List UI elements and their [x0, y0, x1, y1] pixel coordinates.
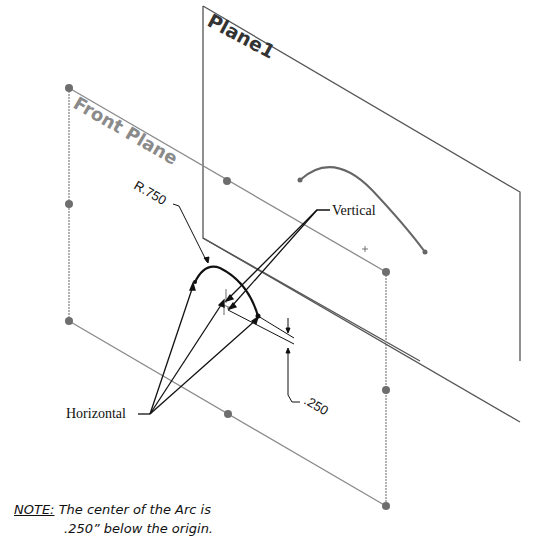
horizontal-leader — [138, 283, 258, 414]
sketch-canvas: .250 R.750 Vertical Horizontal Plane1 Fr… — [0, 0, 538, 556]
note-line2: .250” below the origin. — [14, 519, 213, 538]
plane1[interactable] — [203, 6, 520, 361]
note-line1: The center of the Arc is — [59, 502, 211, 517]
front-plane[interactable] — [65, 84, 390, 510]
vertical-label: Vertical — [332, 203, 376, 218]
plane-handles[interactable] — [65, 84, 390, 510]
horizontal-label: Horizontal — [66, 406, 126, 421]
note-keyword: NOTE: — [14, 502, 55, 517]
radius-label: R.750 — [132, 178, 170, 208]
dimension-offset[interactable] — [228, 310, 300, 402]
note: NOTE: The center of the Arc is .250” bel… — [14, 500, 213, 538]
dimension-offset-label: .250 — [302, 393, 331, 419]
plane1-label: Plane1 — [204, 9, 279, 63]
sketch-arc[interactable] — [193, 267, 261, 319]
front-plane-label: Front Plane — [70, 92, 181, 168]
